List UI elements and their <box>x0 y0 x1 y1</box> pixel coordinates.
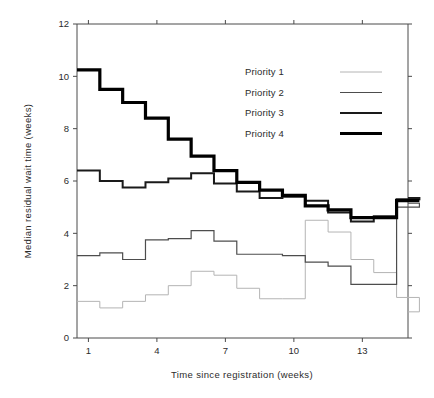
x-axis-title: Time since registration (weeks) <box>171 369 313 380</box>
y-tick-label: 2 <box>64 280 69 291</box>
x-tick-label: 13 <box>357 345 368 356</box>
legend-label-4: Priority 4 <box>245 128 284 139</box>
x-tick-group: 1471013 <box>86 338 368 356</box>
x-tick-label: 4 <box>154 345 159 356</box>
y-tick-label: 6 <box>64 175 69 186</box>
y-tick-label: 0 <box>64 332 69 343</box>
x-tick-label: 1 <box>86 345 91 356</box>
chart-figure: 024681012 1471013 Priority 1Priority 2Pr… <box>0 0 434 398</box>
y-axis-title: Median residual wait time (weeks) <box>22 104 33 259</box>
y-tick-label: 8 <box>64 123 69 134</box>
x-tick-label: 10 <box>289 345 300 356</box>
legend-label-3: Priority 3 <box>245 107 284 118</box>
chart-canvas: 024681012 1471013 Priority 1Priority 2Pr… <box>0 0 434 398</box>
series-line-priority-3 <box>77 171 419 222</box>
series-line-priority-1 <box>77 220 419 312</box>
series-line-priority-2 <box>77 203 419 284</box>
y-tick-label: 4 <box>64 228 69 239</box>
legend-label-1: Priority 1 <box>245 66 284 77</box>
chart-legend: Priority 1Priority 2Priority 3Priority 4 <box>245 66 382 138</box>
y-tick-label: 12 <box>58 18 69 29</box>
x-tick-label: 7 <box>223 345 228 356</box>
y-tick-group: 024681012 <box>58 18 77 343</box>
legend-label-2: Priority 2 <box>245 87 284 98</box>
right-tick-group <box>408 24 412 338</box>
y-tick-label: 10 <box>58 71 69 82</box>
top-tick-group <box>88 20 362 24</box>
series-group <box>77 70 419 312</box>
